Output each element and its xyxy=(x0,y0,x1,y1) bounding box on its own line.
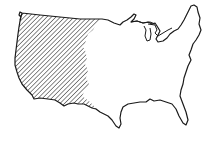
us-map xyxy=(0,0,210,141)
